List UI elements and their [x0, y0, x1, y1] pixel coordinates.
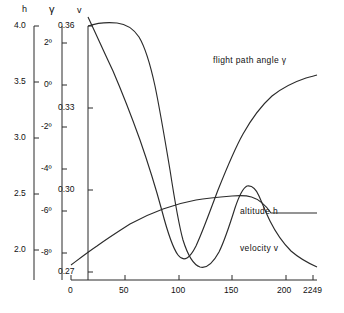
flight-trajectory-chart: h γ v 4.0 3.5 3.0 2.5 2.0 2º 0º -2º -4º …	[0, 0, 344, 313]
plot-area	[0, 0, 344, 313]
curve-altitude	[71, 196, 317, 265]
curve-flight-path-angle	[88, 17, 317, 259]
